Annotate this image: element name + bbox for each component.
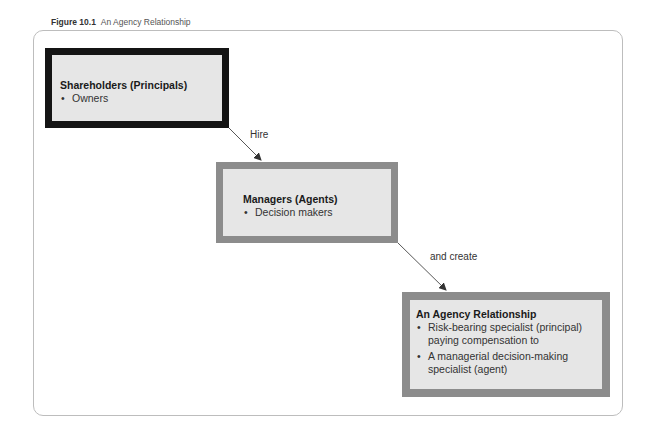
box-title: An Agency Relationship: [416, 308, 606, 321]
box-title: Shareholders (Principals): [60, 79, 187, 92]
agency-relationship-box: An Agency Relationship Risk-bearing spec…: [402, 292, 610, 397]
box-title: Managers (Agents): [243, 193, 338, 206]
hire-label: Hire: [250, 129, 268, 140]
shareholders-box: Shareholders (Principals) Owners: [45, 48, 229, 128]
bullet-item: Decision makers: [243, 206, 338, 219]
bullet-item: Risk-bearing specialist (principal) payi…: [416, 321, 606, 347]
bullet-item: A managerial decision-making specialist …: [416, 350, 606, 376]
managers-box: Managers (Agents) Decision makers: [216, 162, 398, 243]
bullet-item: Owners: [60, 92, 187, 105]
and-create-label: and create: [430, 251, 477, 262]
